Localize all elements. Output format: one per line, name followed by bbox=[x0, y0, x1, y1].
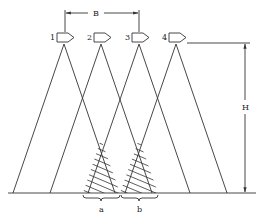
height-label: H bbox=[242, 103, 249, 112]
hatch-line bbox=[78, 170, 125, 190]
camera-4: 4 bbox=[125, 33, 227, 193]
camera-label: 1 bbox=[50, 33, 55, 42]
coverage-diagram: B H 1234 a b bbox=[0, 0, 262, 216]
overlap-label-b: b bbox=[137, 205, 142, 214]
hatch-line bbox=[78, 122, 125, 142]
camera-label: 3 bbox=[125, 33, 130, 42]
hatch-line bbox=[78, 152, 125, 172]
hatch-line bbox=[78, 134, 125, 154]
camera-2: 2 bbox=[50, 33, 152, 193]
hatch-line bbox=[78, 158, 125, 178]
hatch-line bbox=[115, 116, 163, 136]
hatch-line bbox=[78, 140, 125, 160]
hatch-line bbox=[78, 116, 125, 136]
hatch-line bbox=[78, 146, 125, 166]
camera-icon bbox=[169, 33, 186, 42]
hatch-line bbox=[115, 122, 163, 142]
hatch-line bbox=[115, 110, 163, 130]
baseline-label: B bbox=[93, 9, 99, 18]
hatch-line bbox=[115, 164, 163, 184]
hatch-line bbox=[78, 128, 125, 148]
hatch-line bbox=[78, 164, 125, 184]
baseline-dimension: B bbox=[65, 9, 139, 32]
overlap-label-a: a bbox=[99, 205, 104, 214]
left-view-ray bbox=[125, 44, 176, 193]
brace-a bbox=[83, 195, 120, 201]
camera-1: 1 bbox=[13, 33, 115, 193]
height-dimension: H bbox=[187, 43, 250, 192]
hatch-line bbox=[115, 170, 163, 190]
camera-icon bbox=[57, 33, 74, 42]
hatch-line bbox=[115, 128, 163, 148]
camera-icon bbox=[94, 33, 111, 42]
brace-b bbox=[121, 195, 158, 201]
hatch-line bbox=[115, 158, 163, 178]
hatch-line bbox=[78, 110, 125, 130]
hatch-line bbox=[115, 140, 163, 160]
right-view-ray bbox=[139, 44, 190, 193]
right-view-ray bbox=[64, 44, 115, 193]
camera-label: 4 bbox=[162, 33, 167, 42]
left-view-ray bbox=[13, 44, 64, 193]
camera-label: 2 bbox=[87, 33, 92, 42]
right-view-ray bbox=[176, 44, 227, 193]
camera-icon bbox=[132, 33, 149, 42]
